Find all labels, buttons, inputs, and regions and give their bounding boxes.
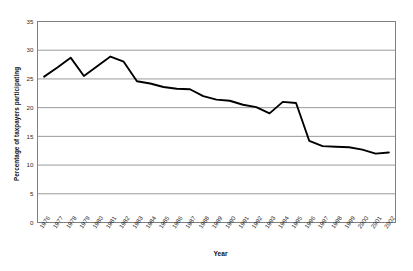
x-tick-label-2001: 2001 (369, 214, 383, 230)
x-axis-title-container: Year (0, 250, 413, 257)
y-tick-label-20: 20 (27, 104, 34, 111)
x-tick-label-1980: 1980 (91, 214, 105, 230)
x-tick-label-2002: 2002 (382, 214, 396, 230)
x-tick-label-1999: 1999 (343, 214, 357, 230)
x-tick-label-1987: 1987 (184, 214, 198, 230)
x-tick-label-1982: 1982 (117, 214, 131, 230)
y-tick-label-0: 0 (30, 219, 34, 226)
x-tick-label-1996: 1996 (303, 214, 317, 230)
y-tick-label-10: 10 (27, 161, 34, 168)
y-tick-label-25: 25 (27, 75, 34, 82)
x-tick-label-1997: 1997 (316, 214, 330, 230)
x-tick-label-1994: 1994 (276, 214, 290, 230)
y-tick-label-5: 5 (30, 190, 34, 197)
x-axis-title: Year (214, 250, 228, 257)
x-tick-label-1992: 1992 (250, 214, 264, 230)
x-tick-label-1989: 1989 (210, 214, 224, 230)
line-chart: Percentage of taxpayers participating 05… (0, 0, 413, 271)
plot-area: 0510152025303519761977197819791980198119… (0, 0, 413, 271)
y-tick-label-35: 35 (27, 18, 34, 25)
x-tick-label-1978: 1978 (64, 214, 78, 230)
data-line-series-0 (44, 57, 389, 154)
x-tick-label-1985: 1985 (157, 214, 171, 230)
x-tick-label-1988: 1988 (197, 214, 211, 230)
x-tick-label-1981: 1981 (104, 214, 118, 230)
plot-frame (38, 22, 396, 223)
x-tick-label-1998: 1998 (329, 214, 343, 230)
x-tick-label-1991: 1991 (237, 214, 251, 230)
x-tick-label-2000: 2000 (356, 214, 370, 230)
y-tick-label-30: 30 (27, 46, 34, 53)
y-tick-label-15: 15 (27, 133, 34, 140)
x-tick-label-1993: 1993 (263, 214, 277, 230)
x-tick-label-1986: 1986 (170, 214, 184, 230)
x-tick-label-1976: 1976 (38, 214, 52, 230)
x-tick-label-1984: 1984 (144, 214, 158, 230)
x-tick-label-1983: 1983 (131, 214, 145, 230)
x-tick-label-1990: 1990 (223, 214, 237, 230)
x-tick-label-1977: 1977 (51, 214, 65, 230)
x-tick-label-1979: 1979 (77, 214, 91, 230)
x-tick-label-1995: 1995 (290, 214, 304, 230)
